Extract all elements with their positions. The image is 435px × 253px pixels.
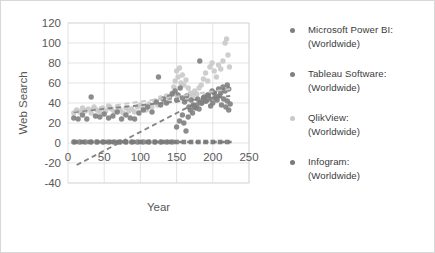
legend-item-qlikview[interactable]: QlikView: (Worldwide) [287,111,433,138]
legend-label-power-bi: Microsoft Power BI: (Worldwide) [308,23,393,50]
data-point [197,58,202,63]
data-point [209,60,214,65]
data-point [205,78,210,83]
legend-item-infogram[interactable]: Infogram: (Worldwide) [287,155,433,182]
data-point [203,70,208,75]
legend-label-qlikview: QlikView: (Worldwide) [308,111,360,138]
data-point [149,109,154,114]
data-point [220,58,225,63]
data-point [156,74,161,79]
data-point [225,52,230,57]
plot-svg: 120100806040200-20-40050100150200250Web … [1,1,271,253]
x-axis-tick-label: 150 [167,151,186,163]
scatter-chart: 120100806040200-20-40050100150200250Web … [1,1,271,253]
data-point [180,72,185,77]
data-point [199,82,204,87]
y-axis-tick-label: 120 [42,17,61,29]
data-point [178,85,183,90]
data-point [227,64,232,69]
data-point [214,74,219,79]
data-point [224,36,229,41]
data-point [185,114,190,119]
data-point [119,116,124,121]
y-axis-tick-label: 40 [48,97,61,109]
data-point [177,65,182,70]
y-axis-tick-label: 80 [48,57,61,69]
legend-label-infogram: Infogram: (Worldwide) [308,155,360,182]
y-axis-tick-label: -40 [44,177,61,189]
legend-label-line2: (Worldwide) [308,37,393,51]
data-point [190,110,195,115]
legend-item-power-bi[interactable]: Microsoft Power BI: (Worldwide) [287,23,433,50]
data-point [183,128,188,133]
data-point [212,68,217,73]
x-axis-tick-label: 250 [239,151,258,163]
legend-label-line1: QlikView: [308,112,349,123]
data-point [88,94,93,99]
legend-dot-icon [287,25,298,36]
legend-label-line1: Microsoft Power BI: [308,24,393,35]
data-point [80,112,85,117]
legend-item-tableau[interactable]: Tableau Software: (Worldwide) [287,67,433,94]
x-axis-title: Year [147,201,170,213]
legend-label-line2: (Worldwide) [308,81,387,95]
legend-label-line2: (Worldwide) [308,169,360,183]
y-axis-tick-label: 60 [48,77,61,89]
data-point [183,77,188,82]
y-axis-tick-label: -20 [44,157,61,169]
y-axis-tick-label: 100 [42,37,61,49]
x-axis-tick-label: 100 [131,151,150,163]
data-point [115,109,120,114]
legend-label-line1: Infogram: [308,156,349,167]
x-axis-tick-label: 0 [65,151,71,163]
data-point [218,66,223,71]
data-point [226,107,231,112]
chart-figure: 120100806040200-20-40050100150200250Web … [0,0,435,253]
y-axis-tick-label: 20 [48,117,61,129]
legend-label-line2: (Worldwide) [308,125,360,139]
legend-label-tableau: Tableau Software: (Worldwide) [308,67,387,94]
data-point [227,101,232,106]
data-point [102,111,107,116]
data-point [180,112,185,117]
y-axis-tick-label: 0 [55,137,61,149]
data-point [75,116,80,121]
data-point [196,106,201,111]
legend-dot-icon [287,113,298,124]
chart-legend: Microsoft Power BI: (Worldwide) Tableau … [287,23,433,199]
data-point [110,113,115,118]
x-axis-tick-label: 200 [203,151,222,163]
legend-label-line1: Tableau Software: [308,68,387,79]
data-point [174,124,179,129]
legend-dot-icon [287,157,298,168]
legend-dot-icon [287,69,298,80]
data-point [185,85,190,90]
data-point [181,120,186,125]
y-axis-title: Web Search [17,71,29,134]
data-point [84,116,89,121]
data-point [132,116,137,121]
